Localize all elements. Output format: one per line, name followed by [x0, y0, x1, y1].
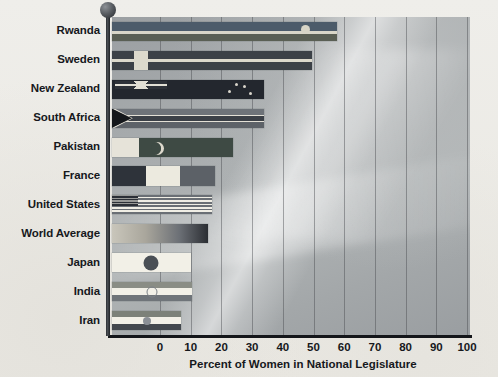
flag-crescent-icon [148, 142, 161, 155]
x-tick-10: 10 [184, 341, 197, 353]
bar-world-average [112, 224, 208, 243]
flagpole-finial-icon [100, 2, 116, 18]
x-tick-50: 50 [307, 341, 320, 353]
flag-chakra-icon [146, 286, 157, 297]
bar-india [112, 282, 192, 301]
bar-rwanda [112, 22, 337, 41]
category-label-new-zealand: New Zealand [31, 82, 100, 94]
flag-star-icon [228, 90, 231, 93]
flag-star-icon [235, 83, 238, 86]
bar-united-states [112, 195, 212, 214]
flagpole [106, 14, 110, 336]
gridline-50 [314, 17, 315, 335]
bar-pakistan [112, 138, 233, 157]
category-label-united-states: United States [28, 198, 100, 210]
flag-cross-vertical [134, 51, 148, 70]
flag-sun-icon [301, 25, 310, 34]
flag-wedge-icon [112, 109, 132, 128]
x-tick-80: 80 [399, 341, 412, 353]
gridline-100 [467, 17, 468, 335]
category-label-pakistan: Pakistan [53, 140, 100, 152]
category-label-world-average: World Average [21, 227, 100, 239]
bar-japan [112, 253, 191, 272]
x-axis-line [108, 335, 472, 338]
flag-emblem-icon [143, 317, 151, 325]
x-tick-40: 40 [276, 341, 289, 353]
bar-south-africa [112, 109, 264, 128]
x-tick-60: 60 [338, 341, 351, 353]
flag-sun-disc-icon [144, 255, 159, 270]
category-label-south-africa: South Africa [33, 111, 100, 123]
category-label-france: France [63, 169, 100, 181]
flag-canton-icon [112, 195, 138, 205]
flag-star-icon [249, 92, 252, 95]
gridline-70 [375, 17, 376, 335]
bar-france [112, 166, 215, 185]
x-tick-30: 30 [246, 341, 259, 353]
gridline-90 [436, 17, 437, 335]
flag-union-jack-icon [115, 81, 167, 89]
x-axis-title: Percent of Women in National Legislature [0, 358, 498, 370]
category-label-rwanda: Rwanda [57, 24, 101, 36]
category-label-india: India [74, 285, 100, 297]
bar-iran [112, 311, 181, 330]
flag-star-icon [243, 85, 246, 88]
bar-new-zealand [112, 80, 264, 99]
x-tick-90: 90 [430, 341, 443, 353]
gridline-60 [344, 17, 345, 335]
category-label-iran: Iran [79, 314, 100, 326]
category-label-japan: Japan [67, 256, 100, 268]
bar-sweden [112, 51, 312, 70]
chart-root: RwandaSwedenNew ZealandSouth AfricaPakis… [0, 0, 498, 377]
x-tick-20: 20 [215, 341, 228, 353]
x-tick-100: 100 [457, 341, 476, 353]
x-tick-70: 70 [368, 341, 381, 353]
gridline-80 [406, 17, 407, 335]
category-label-sweden: Sweden [57, 53, 100, 65]
x-tick-0: 0 [157, 341, 163, 353]
